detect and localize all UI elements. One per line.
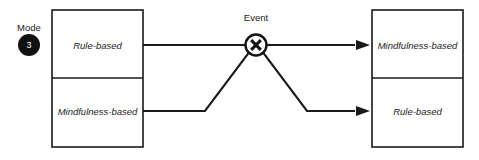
left-group-box: Rule-based Mindfulness-based: [52, 10, 143, 147]
mode-badge: Mode 3: [17, 22, 41, 56]
left-bottom-cell-label: Mindfulness-based: [58, 106, 138, 117]
left-top-cell-label: Rule-based: [73, 40, 122, 51]
event-node[interactable]: Event: [244, 12, 269, 56]
arrowhead-bottom: [356, 106, 370, 116]
mode-badge-label: Mode: [17, 22, 41, 33]
event-node-label: Event: [244, 12, 269, 23]
right-top-cell-label: Mindfulness-based: [378, 40, 458, 51]
right-bottom-cell-label: Rule-based: [393, 106, 442, 117]
connection-mindfulness-to-rule: [143, 51, 370, 116]
diagram-canvas: Rule-based Mindfulness-based Mindfulness…: [0, 0, 479, 160]
mode-badge-number: 3: [26, 40, 31, 50]
arrowhead-top: [356, 40, 370, 50]
right-group-box: Mindfulness-based Rule-based: [372, 10, 463, 147]
flow-line-bottom: [143, 51, 355, 111]
diagram-root: Rule-based Mindfulness-based Mindfulness…: [0, 0, 479, 160]
